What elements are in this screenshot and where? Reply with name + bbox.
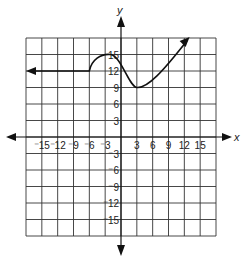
y-axis-label: y: [116, 4, 124, 16]
y-tick-label: ⁻6: [108, 165, 119, 176]
y-tick-label: 3: [113, 116, 119, 127]
x-axis-left-arrow-icon: [6, 133, 16, 141]
y-axis-up-arrow-icon: [117, 16, 125, 27]
x-tick-label: ⁻6: [84, 140, 95, 151]
x-tick-label: ⁻12: [50, 140, 67, 151]
y-tick-label: 6: [113, 99, 119, 110]
axes: [6, 16, 232, 256]
x-tick-label: 3: [134, 140, 140, 151]
coordinate-plane: ⁻15⁻12⁻9⁻6⁻336912151512963⁻3⁻6⁻9⁻12⁻15 x…: [0, 0, 246, 263]
x-tick-label: ⁻15: [34, 140, 51, 151]
curve-left-arrow-icon: [26, 67, 36, 75]
y-tick-label: ⁻9: [108, 182, 119, 193]
x-tick-label: 9: [166, 140, 172, 151]
function-curve: [30, 41, 187, 88]
x-tick-label: 15: [195, 140, 207, 151]
y-tick-label: 9: [113, 83, 119, 94]
x-axis-label: x: [233, 131, 240, 143]
y-tick-label: ⁻12: [103, 198, 120, 209]
y-tick-label: ⁻3: [108, 149, 119, 160]
x-tick-label: 12: [179, 140, 191, 151]
x-axis-right-arrow-icon: [222, 133, 232, 141]
y-axis-down-arrow-icon: [117, 245, 125, 256]
x-tick-label: 6: [150, 140, 156, 151]
y-tick-label: 12: [108, 66, 120, 77]
y-tick-label: ⁻15: [103, 215, 120, 226]
x-tick-label: ⁻9: [68, 140, 79, 151]
